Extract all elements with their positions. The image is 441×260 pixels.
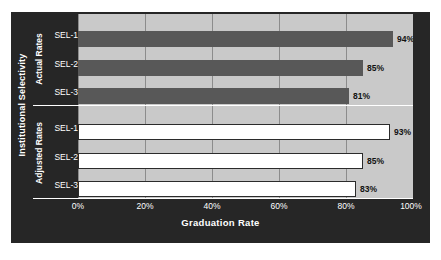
group-label-actual-rates-text: Actual Rates — [34, 33, 44, 85]
y-axis-title-label: Institutional Selectivity — [17, 53, 27, 156]
y-axis-title: Institutional Selectivity — [11, 12, 33, 198]
category-tick-adjusted-sel-2: SEL-2 — [48, 151, 78, 163]
x-tick-60: 60% — [259, 201, 299, 211]
group-label-adjusted-rates: Adjusted Rates — [31, 108, 47, 198]
x-tick-80: 80% — [326, 201, 366, 211]
category-tick-adjusted-sel-3: SEL-3 — [48, 179, 78, 191]
bar-value-adjusted-sel-2: 85% — [363, 153, 384, 169]
bar-value-actual-sel-3: 81% — [349, 88, 370, 104]
category-tick-adjusted-sel-1: SEL-1 — [48, 122, 78, 134]
category-tick-actual-sel-1: SEL-1 — [48, 29, 78, 41]
chart-figure: Institutional Selectivity Actual Rates A… — [11, 12, 430, 243]
bar-value-actual-sel-1: 94% — [393, 31, 413, 47]
x-tick-20: 20% — [125, 201, 165, 211]
group-label-adjusted-rates-text: Adjusted Rates — [34, 122, 44, 184]
bar-value-adjusted-sel-1: 93% — [390, 124, 411, 140]
group-label-actual-rates: Actual Rates — [31, 14, 47, 104]
panel-separator — [33, 105, 413, 106]
x-tick-100: 100% — [391, 201, 431, 211]
bar-actual-sel-2 — [78, 60, 363, 76]
plot-area: 94% 85% 81% 93% 85% 83% — [78, 14, 413, 198]
bar-value-actual-sel-2: 85% — [363, 60, 384, 76]
bar-value-adjusted-sel-3: 83% — [356, 181, 377, 197]
category-tick-actual-sel-3: SEL-3 — [48, 86, 78, 98]
bar-adjusted-sel-1 — [78, 124, 390, 140]
x-tick-40: 40% — [192, 201, 232, 211]
x-axis-title: Graduation Rate — [11, 217, 430, 228]
bar-actual-sel-1 — [78, 31, 393, 47]
bar-actual-sel-3 — [78, 88, 349, 104]
x-tick-0: 0% — [58, 201, 98, 211]
x-axis-line — [33, 198, 413, 199]
bar-adjusted-sel-3 — [78, 181, 356, 197]
category-tick-actual-sel-2: SEL-2 — [48, 58, 78, 70]
bar-adjusted-sel-2 — [78, 153, 363, 169]
